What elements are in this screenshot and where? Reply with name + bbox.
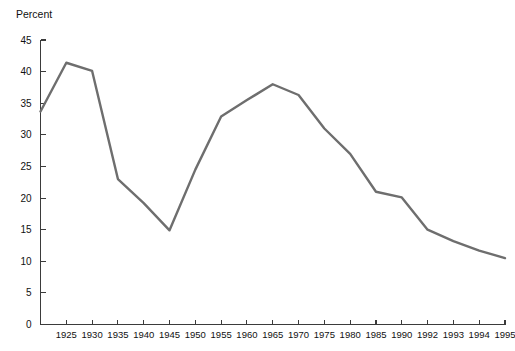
x-tick-mark-group [66,320,505,325]
x-tick-label: 1945 [159,329,180,340]
x-tick-label: 1995 [494,329,515,340]
x-tick-label: 1955 [211,329,232,340]
x-tick-label: 1965 [262,329,283,340]
y-tick-label: 5 [26,287,32,298]
data-series-line [41,63,506,258]
x-tick-label: 1990 [391,329,412,340]
y-tick-label-group: 051015202530354045 [20,35,32,331]
y-tick-label: 45 [20,35,32,46]
x-tick-label: 1950 [185,329,206,340]
chart-container: Percent 051015202530354045 1925193019351… [0,0,515,351]
x-tick-label-group: 1925193019351940194519501955196019651970… [56,329,515,340]
x-tick-label: 1992 [417,329,438,340]
x-tick-label: 1994 [469,329,490,340]
x-tick-label: 1960 [236,329,257,340]
x-tick-label: 1975 [314,329,335,340]
x-tick-label: 1993 [443,329,464,340]
line-chart-plot: 051015202530354045 192519301935194019451… [0,0,515,351]
y-tick-label: 0 [26,319,32,330]
x-tick-label: 1930 [82,329,103,340]
x-tick-label: 1985 [365,329,386,340]
y-tick-label: 25 [20,161,32,172]
y-tick-label: 40 [20,66,32,77]
y-tick-label: 35 [20,98,32,109]
x-tick-label: 1970 [288,329,309,340]
y-tick-mark-group [41,40,46,293]
x-tick-label: 1935 [107,329,128,340]
x-tick-label: 1980 [340,329,361,340]
y-tick-label: 20 [20,193,32,204]
x-tick-label: 1940 [133,329,154,340]
y-tick-label: 30 [20,129,32,140]
x-tick-label: 1925 [56,329,77,340]
y-tick-label: 10 [20,256,32,267]
y-tick-label: 15 [20,224,32,235]
